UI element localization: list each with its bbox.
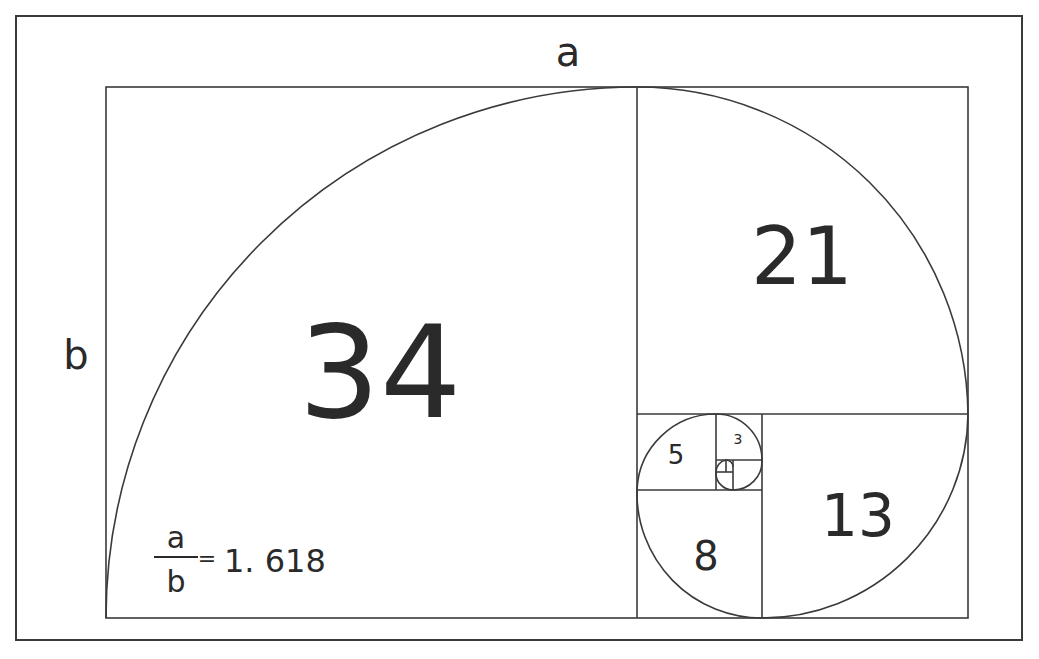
square-label-5: 5 — [668, 440, 685, 470]
formula-equals: = — [198, 546, 216, 571]
formula-denominator: b — [166, 564, 185, 599]
formula-value: 1. 618 — [224, 542, 326, 580]
square-divisions — [637, 87, 968, 618]
square-label-3: 3 — [734, 431, 743, 447]
square-label-34: 34 — [299, 298, 462, 447]
square-label-13: 13 — [821, 482, 895, 550]
side-label-b: b — [63, 332, 88, 378]
square-label-21: 21 — [751, 210, 853, 303]
golden-ratio-formula: a b = 1. 618 — [154, 520, 326, 599]
golden-ratio-diagram: a b 34 21 13 8 5 3 a b = 1. 618 — [0, 0, 1039, 659]
formula-numerator: a — [167, 520, 185, 555]
square-label-8: 8 — [693, 533, 718, 579]
side-label-a: a — [556, 29, 581, 75]
